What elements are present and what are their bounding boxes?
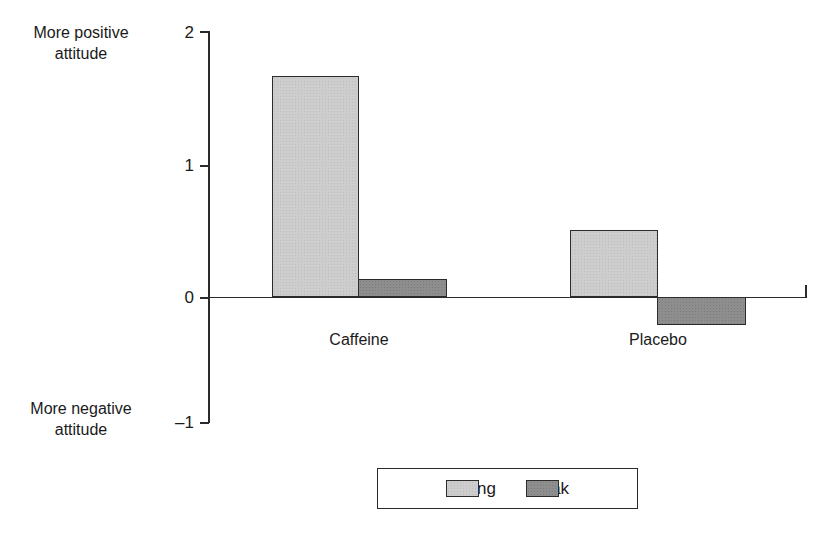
x-label-placebo: Placebo [578,331,738,349]
y-tick-1 [200,165,209,167]
legend-item-strong: Strong [446,480,496,497]
bar-placebo-weak [657,297,746,325]
y-tick-label-1: 1 [160,157,194,174]
axis-caption-positive-line1: More positive [6,22,156,43]
legend-swatch-weak [526,480,559,497]
y-tick-label-2: 2 [160,24,194,41]
y-tick-2 [200,31,209,33]
y-axis-line [208,31,210,423]
axis-caption-positive-line2: attitude [6,43,156,64]
axis-caption-negative-line2: attitude [6,419,156,440]
axis-caption-negative: More negative attitude [6,398,156,440]
x-label-caffeine: Caffeine [279,331,439,349]
axis-caption-negative-line1: More negative [6,398,156,419]
y-tick-minus-1 [200,422,209,424]
bar-caffeine-strong [272,76,359,297]
legend: Strong Weak [377,468,638,509]
bar-placebo-strong [570,230,658,297]
axis-caption-positive: More positive attitude [6,22,156,64]
y-tick-0 [200,297,209,299]
bar-caffeine-weak [358,279,447,297]
legend-swatch-strong [446,480,479,497]
y-tick-label-minus-1: –1 [160,414,194,431]
legend-item-weak: Weak [526,480,569,497]
bar-chart: More positive attitude More negative att… [0,0,832,542]
x-axis-end-tick [805,285,807,298]
y-tick-label-0: 0 [160,289,194,306]
